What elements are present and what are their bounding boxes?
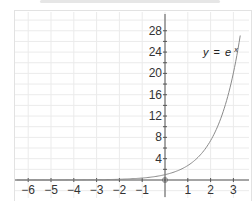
- y-tick-label: 12: [149, 109, 163, 123]
- y-tick-labels: 481216202428: [149, 24, 163, 166]
- x-tick-label: −1: [135, 183, 149, 197]
- y-tick-label: 16: [149, 88, 163, 102]
- x-tick-labels: −6−5−4−3−2−1123: [21, 183, 237, 197]
- y-tick-label: 28: [149, 24, 163, 38]
- x-tick-label: 2: [207, 183, 214, 197]
- x-tick-label: −3: [90, 183, 104, 197]
- x-tick-label: 1: [184, 183, 191, 197]
- y-tick-label: 8: [155, 130, 162, 144]
- x-tick-label: −2: [113, 183, 127, 197]
- curve-label: y = e x: [202, 46, 238, 58]
- x-tick-label: −4: [67, 183, 81, 197]
- chart-plot: −6−5−4−3−2−1123 481216202428 y = e x: [0, 0, 252, 201]
- x-tick-label: 3: [230, 183, 237, 197]
- y-tick-label: 4: [155, 152, 162, 166]
- y-tick-label: 24: [149, 45, 163, 59]
- x-tick-label: −6: [21, 183, 35, 197]
- grid-lines: [15, 12, 249, 198]
- x-tick-label: −5: [44, 183, 58, 197]
- y-tick-label: 20: [149, 66, 163, 80]
